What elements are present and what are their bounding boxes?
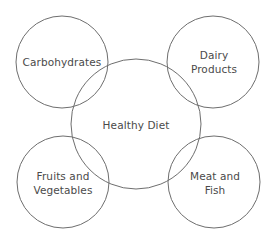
- diagram-canvas: Carbohydrates Dairy Products Healthy Die…: [0, 0, 271, 247]
- carbohydrates-label-line1: Carbohydrates: [23, 55, 102, 69]
- healthy-diet-label-text: Healthy Diet: [103, 118, 170, 132]
- meat-fish-label: Meat and Fish: [190, 169, 240, 197]
- healthy-diet-label: Healthy Diet: [103, 118, 170, 132]
- fruits-vegetables-label-line2: Vegetables: [33, 183, 92, 197]
- fruits-vegetables-label-line1: Fruits and: [33, 169, 92, 183]
- dairy-products-label-line1: Dairy: [191, 48, 237, 62]
- meat-fish-label-line2: Fish: [190, 183, 240, 197]
- carbohydrates-label: Carbohydrates: [23, 55, 102, 69]
- dairy-products-label-line2: Products: [191, 62, 237, 76]
- meat-fish-label-line1: Meat and: [190, 169, 240, 183]
- dairy-products-label: Dairy Products: [191, 48, 237, 76]
- fruits-vegetables-label: Fruits and Vegetables: [33, 169, 92, 197]
